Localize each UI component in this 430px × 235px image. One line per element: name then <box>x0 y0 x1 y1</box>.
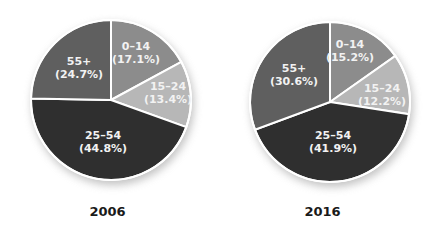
slice-pct: (13.4%) <box>133 93 203 106</box>
slice-pct: (24.7%) <box>44 68 114 81</box>
slice-name: 25–54 <box>68 129 138 142</box>
slice-name: 0–14 <box>101 40 171 53</box>
slice-pct: (12.2%) <box>347 95 417 108</box>
slice-label-15-24: 15–24 (13.4%) <box>133 80 203 106</box>
pie-chart-2006: 0–14 (17.1%) 15–24 (13.4%) 25–54 (44.8%)… <box>0 0 215 235</box>
chart-title-2016: 2016 <box>215 204 430 219</box>
chart-title-2006: 2006 <box>0 204 215 219</box>
slice-label-25-54: 25–54 (44.8%) <box>68 129 138 155</box>
slice-label-0-14: 0–14 (15.2%) <box>315 38 385 64</box>
slice-name: 25–54 <box>298 129 368 142</box>
slice-label-15-24: 15–24 (12.2%) <box>347 82 417 108</box>
pie-chart-2016: 0–14 (15.2%) 15–24 (12.2%) 25–54 (41.9%)… <box>215 0 430 235</box>
slice-name: 15–24 <box>133 80 203 93</box>
slice-label-55-plus: 55+ (24.7%) <box>44 55 114 81</box>
slice-name: 55+ <box>259 62 329 75</box>
slice-label-55-plus: 55+ (30.6%) <box>259 62 329 88</box>
slice-pct: (41.9%) <box>298 142 368 155</box>
slice-name: 0–14 <box>315 38 385 51</box>
pie-2016-graphic <box>215 0 430 235</box>
slice-name: 55+ <box>44 55 114 68</box>
slice-name: 15–24 <box>347 82 417 95</box>
slice-pct: (44.8%) <box>68 142 138 155</box>
slice-label-25-54: 25–54 (41.9%) <box>298 129 368 155</box>
slice-pct: (30.6%) <box>259 75 329 88</box>
pie-2006-graphic <box>0 0 215 235</box>
